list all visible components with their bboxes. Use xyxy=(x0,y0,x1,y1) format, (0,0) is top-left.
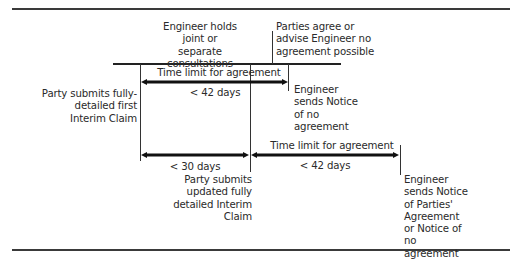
first-time-limit-arrow xyxy=(141,79,288,85)
second-time-limit-label: Time limit for agreement xyxy=(270,140,394,152)
first-claim-label: Party submits fully-detailed first Inter… xyxy=(40,88,137,125)
first-notice-label: Engineer sends Notice of no agreement xyxy=(294,84,366,133)
engineer-consultations-label: Engineer holds joint or separate consult… xyxy=(160,21,240,70)
first-duration-label: < 42 days xyxy=(180,87,250,99)
parties-agree-label: Parties agree or advise Engineer no agre… xyxy=(276,21,376,58)
thirty-day-arrow xyxy=(141,152,249,158)
updated-claim-label: Party submits updated fully detailed Int… xyxy=(150,174,252,223)
thirty-day-label: < 30 days xyxy=(160,161,230,173)
first-time-limit-label: Time limit for agreement xyxy=(150,67,288,79)
second-time-limit-arrow xyxy=(251,152,399,158)
second-duration-label: < 42 days xyxy=(290,160,360,172)
final-notice-label: Engineer sends Notice of Parties' Agreem… xyxy=(404,174,468,260)
